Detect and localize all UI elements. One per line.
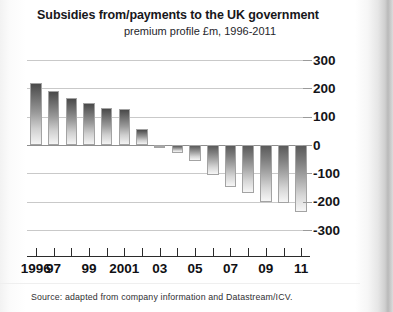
y-tick-mark-200 <box>303 88 312 89</box>
plot-area <box>27 60 310 230</box>
x-tick-mark-2002 <box>142 248 143 256</box>
chart-subtitle: premium profile £m, 1996-2011 <box>0 24 356 38</box>
bar-1999 <box>83 103 95 145</box>
x-tick-mark-1999 <box>89 248 90 256</box>
y-tick-mark--100 <box>303 173 312 174</box>
x-tick-label-2011: 11 <box>293 261 309 276</box>
bar-2002 <box>136 129 148 145</box>
x-tick-mark-2003 <box>160 248 161 256</box>
y-tick-label-300: 300 <box>313 54 336 67</box>
x-tick-mark-1998 <box>71 248 72 256</box>
y-tick-label--300: -300 <box>313 224 340 237</box>
bar-1996 <box>30 83 42 145</box>
x-tick-mark-1997 <box>54 248 55 256</box>
y-tick-mark-0 <box>303 145 312 146</box>
gridline--300 <box>27 230 310 231</box>
x-tick-label-1997: 97 <box>46 261 62 276</box>
x-tick-label-2009: 09 <box>258 261 274 276</box>
bar-2005 <box>189 145 201 161</box>
x-axis-ticks <box>27 248 317 257</box>
y-tick-mark--200 <box>303 202 312 203</box>
y-tick-mark-300 <box>303 60 312 61</box>
x-tick-label-2007: 07 <box>222 261 238 276</box>
y-tick-label-200: 200 <box>313 82 336 95</box>
bar-2008 <box>242 145 254 193</box>
bar-2004 <box>172 145 184 153</box>
bar-2003 <box>154 145 166 148</box>
bar-2006 <box>207 145 219 175</box>
x-tick-mark-2011 <box>301 248 302 256</box>
bar-2001 <box>119 109 131 145</box>
bar-1997 <box>48 91 60 145</box>
y-tick-mark-100 <box>303 117 312 118</box>
x-tick-label-1999: 99 <box>81 261 97 276</box>
y-tick-label-100: 100 <box>313 110 336 123</box>
y-axis-labels: 3002001000-100-200-300 <box>313 52 391 242</box>
y-tick-label--100: -100 <box>313 167 340 180</box>
x-tick-mark-2007 <box>230 248 231 256</box>
chart-header: Subsidies from/payments to the UK govern… <box>0 8 356 38</box>
bar-2009 <box>260 145 272 202</box>
bar-series <box>27 60 310 230</box>
x-tick-label-2001: 2001 <box>108 261 140 276</box>
chart-title: Subsidies from/payments to the UK govern… <box>0 8 356 22</box>
x-axis-labels: 1996979920010305070911 <box>0 261 330 281</box>
x-tick-mark-1996 <box>36 248 37 256</box>
bar-1998 <box>66 98 78 145</box>
y-tick-mark--300 <box>303 230 312 231</box>
x-tick-mark-2008 <box>248 248 249 256</box>
x-tick-mark-2004 <box>177 248 178 256</box>
source-note: Source: adapted from company information… <box>31 292 292 302</box>
x-tick-label-2005: 05 <box>187 261 203 276</box>
x-tick-label-2003: 03 <box>152 261 168 276</box>
y-tick-label-0: 0 <box>313 139 321 152</box>
bar-2000 <box>101 108 113 145</box>
x-tick-mark-2010 <box>284 248 285 256</box>
x-tick-mark-2009 <box>266 248 267 256</box>
bar-2010 <box>278 145 290 203</box>
bar-2007 <box>225 145 237 187</box>
x-tick-mark-2006 <box>213 248 214 256</box>
divider <box>0 283 360 284</box>
x-tick-mark-2000 <box>107 248 108 256</box>
y-tick-label--200: -200 <box>313 195 340 208</box>
x-tick-mark-2005 <box>195 248 196 256</box>
chart-card: Subsidies from/payments to the UK govern… <box>0 0 393 312</box>
x-tick-mark-2001 <box>124 248 125 256</box>
